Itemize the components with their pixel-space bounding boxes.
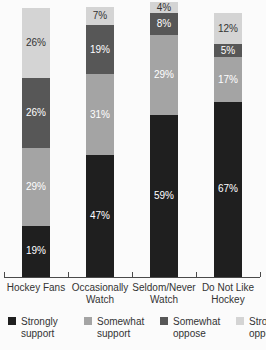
legend-swatch — [236, 317, 244, 325]
bar-segment: 12% — [214, 13, 242, 44]
x-axis-label: Seldom/NeverWatch — [132, 282, 196, 306]
bar-segment: 26% — [22, 78, 50, 148]
x-axis-labels: Hockey FansOccasionallyWatchSeldom/Never… — [0, 282, 266, 308]
legend-item: Somewhat support — [84, 316, 147, 340]
stacked-bar-chart: 26%26%29%19%7%19%31%47%4%8%29%59%12%5%17… — [0, 0, 266, 350]
segment-value-label: 7% — [93, 11, 107, 21]
bar-1: 26%26%29%19% — [22, 8, 50, 277]
bar-segment: 8% — [150, 13, 178, 35]
x-axis-label: Hockey Fans — [4, 282, 68, 294]
legend-label: Somewhat oppose — [173, 316, 223, 340]
legend-label: Somewhat support — [97, 316, 147, 340]
segment-value-label: 29% — [154, 70, 174, 80]
segment-value-label: 59% — [154, 191, 174, 201]
x-axis-tick — [196, 272, 197, 277]
x-axis-label: Do Not LikeHockey — [196, 282, 260, 306]
bar-segment: 67% — [214, 102, 242, 277]
segment-value-label: 12% — [218, 24, 238, 34]
bar-segment: 59% — [150, 115, 178, 277]
bar-segment: 31% — [86, 74, 114, 154]
bar-segment: 4% — [150, 2, 178, 13]
bar-segment: 5% — [214, 44, 242, 57]
segment-value-label: 26% — [26, 38, 46, 48]
segment-value-label: 19% — [26, 246, 46, 256]
segment-value-label: 17% — [218, 75, 238, 85]
bar-segment: 19% — [86, 25, 114, 74]
legend-swatch — [160, 317, 168, 325]
x-axis-label: OccasionallyWatch — [68, 282, 132, 306]
segment-value-label: 8% — [157, 19, 171, 29]
bar-4: 12%5%17%67% — [214, 13, 242, 277]
chart-legend: Strongly supportSomewhat supportSomewhat… — [8, 316, 262, 340]
x-axis-tick — [68, 272, 69, 277]
segment-value-label: 26% — [26, 108, 46, 118]
bar-segment: 47% — [86, 155, 114, 277]
legend-item: Somewhat oppose — [160, 316, 223, 340]
segment-value-label: 4% — [157, 3, 171, 13]
x-axis-line — [4, 277, 260, 278]
segment-value-label: 47% — [90, 211, 110, 221]
bar-segment: 17% — [214, 57, 242, 101]
bar-segment: 26% — [22, 8, 50, 78]
segment-value-label: 31% — [90, 110, 110, 120]
legend-swatch — [8, 317, 16, 325]
bar-segment: 29% — [150, 35, 178, 115]
bar-segment: 7% — [86, 7, 114, 25]
segment-value-label: 5% — [221, 46, 235, 56]
bar-3: 4%8%29%59% — [150, 2, 178, 277]
segment-value-label: 19% — [90, 45, 110, 55]
legend-item: Strongly oppose — [236, 316, 266, 340]
plot-area: 26%26%29%19%7%19%31%47%4%8%29%59%12%5%17… — [0, 0, 266, 278]
legend-label: Strongly support — [21, 316, 71, 340]
bar-segment: 29% — [22, 148, 50, 226]
x-axis-tick — [260, 272, 261, 277]
segment-value-label: 29% — [26, 182, 46, 192]
bar-2: 7%19%31%47% — [86, 7, 114, 277]
legend-swatch — [84, 317, 92, 325]
x-axis-tick — [132, 272, 133, 277]
segment-value-label: 67% — [218, 184, 238, 194]
bar-segment: 19% — [22, 226, 50, 277]
x-axis-tick — [4, 272, 5, 277]
legend-item: Strongly support — [8, 316, 71, 340]
legend-label: Strongly oppose — [249, 316, 266, 340]
